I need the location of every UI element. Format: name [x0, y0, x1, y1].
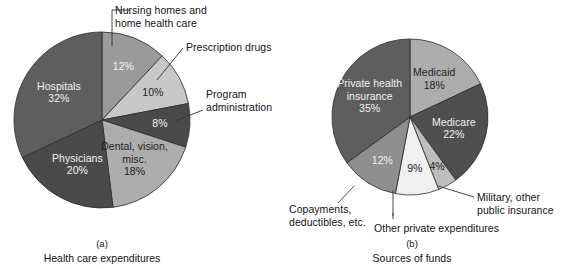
slice-label: 8%: [152, 117, 167, 129]
slice-label: 4%: [429, 160, 444, 172]
callout-program-administration: Program administration: [206, 88, 272, 113]
callout-prescription-drugs: Prescription drugs: [186, 41, 272, 54]
figure-two-pie-charts: 12%10%8%Dental, vision,misc.18%Physician…: [0, 0, 562, 269]
slice-label: 12%: [372, 154, 393, 166]
panel-letter-a: (a): [62, 238, 142, 249]
callout-nursing-homes: Nursing homes and home health care: [115, 4, 207, 29]
callout-other-private-expenditures: Other private expenditures: [374, 222, 499, 235]
caption-health-care-expenditures: Health care expenditures: [22, 252, 182, 264]
slice-label: 9%: [407, 162, 422, 174]
caption-sources-of-funds: Sources of funds: [352, 252, 472, 264]
callout-copayments-deductibles: Copayments, deductibles, etc.: [289, 203, 366, 228]
panel-letter-b: (b): [372, 238, 452, 249]
leader-copayments: [338, 186, 354, 203]
leader-military: [438, 186, 474, 197]
slice-label: 10%: [142, 86, 163, 98]
slice-label: 12%: [113, 60, 134, 72]
callout-military-other-public-insurance: Military, other public insurance: [477, 191, 554, 216]
